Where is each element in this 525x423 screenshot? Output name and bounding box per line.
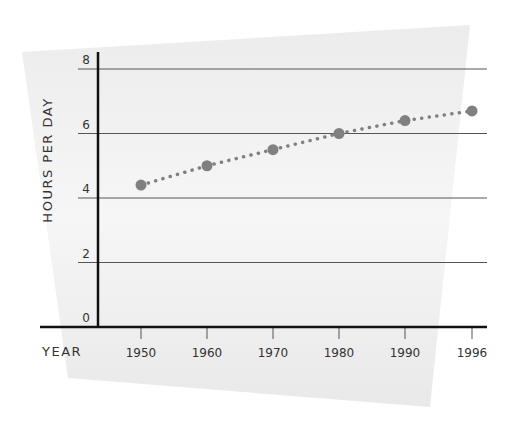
data-point [268,144,279,155]
y-tick-label: 2 [82,247,90,261]
y-tick-label: 0 [82,311,90,325]
x-tick-label: 1980 [324,346,355,360]
line-chart: 02468 195019601970198019901996 HOURS PER… [0,0,525,423]
x-tick-label: 1950 [126,346,157,360]
y-tick-label: 6 [82,118,90,132]
data-point [400,115,411,126]
x-tick-label: 1960 [192,346,223,360]
x-tick-label: 1996 [457,346,488,360]
data-point [202,160,213,171]
data-point [467,105,478,116]
data-point [136,180,147,191]
data-point [334,128,345,139]
x-tick-label: 1970 [258,346,289,360]
x-tick-label: 1990 [390,346,421,360]
y-tick-label: 8 [82,53,90,67]
y-axis-title: HOURS PER DAY [40,97,55,222]
y-tick-label: 4 [82,182,90,196]
x-axis-title: YEAR [41,344,82,359]
